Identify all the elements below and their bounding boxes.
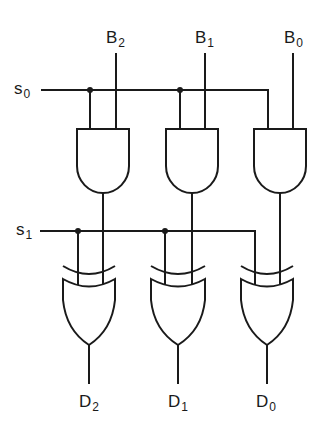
junction-dot [75, 228, 81, 234]
and-gate-1 [166, 129, 218, 193]
s0-label: s0 [14, 80, 30, 100]
xor-gate-0 [241, 266, 293, 345]
b1-label: B1 [195, 29, 214, 49]
and-gate-0 [254, 129, 306, 193]
b2-label: B2 [106, 29, 125, 49]
xor-gate-1 [151, 266, 205, 345]
d0-label: D0 [256, 393, 276, 413]
xor-gate-2 [63, 266, 115, 345]
junction-dot [87, 87, 93, 93]
circuit-diagram [0, 0, 322, 429]
and-gate-2 [77, 129, 129, 193]
junction-dot [162, 228, 168, 234]
d2-label: D2 [79, 393, 99, 413]
s1-wire [40, 231, 255, 286]
s0-wire [41, 90, 268, 129]
d1-label: D1 [168, 393, 188, 413]
s1-label: s1 [16, 221, 32, 241]
b0-label: B0 [284, 29, 303, 49]
junction-dot [177, 87, 183, 93]
